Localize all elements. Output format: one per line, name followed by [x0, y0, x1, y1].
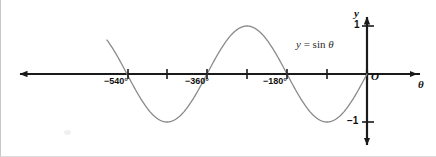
equation-variable: θ: [328, 38, 333, 50]
y-tick-label-minus-one: −1: [347, 115, 358, 126]
x-tick-label-minus360: −360°: [185, 76, 209, 86]
equation-annotation: y = sin θ: [296, 38, 334, 50]
x-axis-label: θ: [418, 78, 424, 90]
y-tick-label-one: 1: [354, 19, 360, 30]
origin-label: O: [371, 70, 379, 82]
x-tick-label-minus180: −180°: [263, 76, 287, 86]
sine-graph-figure: −540° −360° −180° 1 −1 y θ O y = sin θ: [0, 0, 436, 157]
page-smudge: [64, 130, 71, 135]
y-axis-label: y: [354, 7, 359, 19]
equation-sin: sin: [313, 38, 326, 50]
x-tick-label-minus540: −540°: [104, 76, 128, 86]
